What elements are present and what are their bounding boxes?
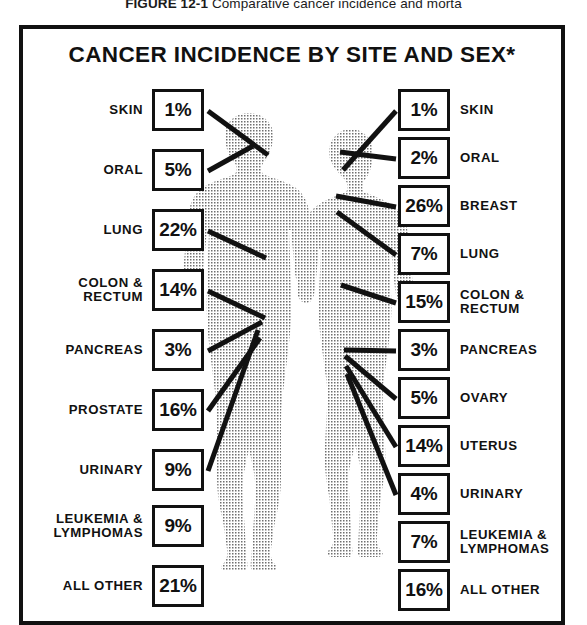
site-label: LEUKEMIA & LYMPHOMAS bbox=[54, 512, 152, 541]
row-male-pancreas: PANCREAS 3% bbox=[24, 329, 204, 371]
percent-value: 9% bbox=[164, 515, 191, 537]
percent-value: 14% bbox=[159, 279, 196, 301]
percent-box: 5% bbox=[152, 149, 204, 191]
percent-value: 16% bbox=[405, 579, 442, 601]
site-label: COLON & RECTUM bbox=[78, 276, 152, 305]
percent-value: 4% bbox=[410, 483, 437, 505]
percent-value: 3% bbox=[164, 339, 191, 361]
percent-box: 15% bbox=[398, 281, 450, 323]
percent-box: 9% bbox=[152, 449, 204, 491]
percent-box: 9% bbox=[152, 505, 204, 547]
percent-box: 3% bbox=[152, 329, 204, 371]
site-label: ALL OTHER bbox=[63, 579, 152, 593]
percent-box: 16% bbox=[398, 569, 450, 611]
row-female-oral: 2% ORAL bbox=[398, 137, 568, 179]
row-female-colon-rectum: 15% COLON & RECTUM bbox=[398, 281, 568, 323]
figure-caption-text: Comparative cancer incidence and morta bbox=[212, 0, 462, 11]
percent-box: 1% bbox=[152, 89, 204, 131]
percent-value: 3% bbox=[410, 339, 437, 361]
row-male-oral: ORAL 5% bbox=[24, 149, 204, 191]
row-female-all-other: 16% ALL OTHER bbox=[398, 569, 568, 611]
row-male-prostate: PROSTATE 16% bbox=[24, 389, 204, 431]
percent-value: 21% bbox=[159, 575, 196, 597]
site-label: SKIN bbox=[109, 103, 152, 117]
site-label: SKIN bbox=[450, 103, 494, 117]
row-male-leukemia-lymphomas: LEUKEMIA & LYMPHOMAS 9% bbox=[24, 505, 204, 547]
site-label: ORAL bbox=[103, 163, 152, 177]
row-male-skin: SKIN 1% bbox=[24, 89, 204, 131]
figure-caption-label: FIGURE 12-1 bbox=[125, 0, 208, 11]
site-label: BREAST bbox=[450, 199, 518, 213]
row-female-urinary: 4% URINARY bbox=[398, 473, 568, 515]
percent-value: 5% bbox=[410, 387, 437, 409]
percent-value: 22% bbox=[159, 219, 196, 241]
row-female-breast: 26% BREAST bbox=[398, 185, 568, 227]
row-female-pancreas: 3% PANCREAS bbox=[398, 329, 568, 371]
percent-box: 16% bbox=[152, 389, 204, 431]
site-label: PROSTATE bbox=[69, 403, 152, 417]
row-male-urinary: URINARY 9% bbox=[24, 449, 204, 491]
percent-value: 7% bbox=[410, 531, 437, 553]
row-female-leukemia-lymphomas: 7% LEUKEMIA & LYMPHOMAS bbox=[398, 521, 568, 563]
percent-box: 2% bbox=[398, 137, 450, 179]
row-female-ovary: 5% OVARY bbox=[398, 377, 568, 419]
row-male-colon-rectum: COLON & RECTUM 14% bbox=[24, 269, 204, 311]
site-label: UTERUS bbox=[450, 439, 518, 453]
percent-box: 5% bbox=[398, 377, 450, 419]
percent-value: 16% bbox=[159, 399, 196, 421]
percent-box: 7% bbox=[398, 233, 450, 275]
percent-box: 1% bbox=[398, 89, 450, 131]
site-label: URINARY bbox=[450, 487, 523, 501]
site-label: LEUKEMIA & LYMPHOMAS bbox=[450, 528, 549, 557]
percent-value: 5% bbox=[164, 159, 191, 181]
site-label: URINARY bbox=[80, 463, 152, 477]
percent-value: 1% bbox=[410, 99, 437, 121]
row-female-skin: 1% SKIN bbox=[398, 89, 568, 131]
percent-box: 4% bbox=[398, 473, 450, 515]
percent-box: 21% bbox=[152, 565, 204, 607]
site-label: ORAL bbox=[450, 151, 500, 165]
site-label: PANCREAS bbox=[450, 343, 537, 357]
percent-value: 15% bbox=[405, 291, 442, 313]
percent-box: 7% bbox=[398, 521, 450, 563]
row-female-lung: 7% LUNG bbox=[398, 233, 568, 275]
site-label: PANCREAS bbox=[66, 343, 152, 357]
percent-value: 2% bbox=[410, 147, 437, 169]
site-label: LUNG bbox=[450, 247, 500, 261]
percent-box: 26% bbox=[398, 185, 450, 227]
percent-value: 9% bbox=[164, 459, 191, 481]
chart-title: CANCER INCIDENCE BY SITE AND SEX* bbox=[19, 42, 565, 68]
row-female-uterus: 14% UTERUS bbox=[398, 425, 568, 467]
percent-box: 14% bbox=[398, 425, 450, 467]
percent-box: 22% bbox=[152, 209, 204, 251]
row-male-lung: LUNG 22% bbox=[24, 209, 204, 251]
site-label: LUNG bbox=[103, 223, 152, 237]
site-label: OVARY bbox=[450, 391, 508, 405]
row-male-all-other: ALL OTHER 21% bbox=[24, 565, 204, 607]
percent-box: 3% bbox=[398, 329, 450, 371]
site-label: COLON & RECTUM bbox=[450, 288, 525, 317]
site-label: ALL OTHER bbox=[450, 583, 540, 597]
percent-value: 14% bbox=[405, 435, 442, 457]
percent-value: 1% bbox=[164, 99, 191, 121]
percent-box: 14% bbox=[152, 269, 204, 311]
percent-value: 7% bbox=[410, 243, 437, 265]
figure-caption: FIGURE 12-1 Comparative cancer incidence… bbox=[0, 0, 587, 16]
percent-value: 26% bbox=[405, 195, 442, 217]
